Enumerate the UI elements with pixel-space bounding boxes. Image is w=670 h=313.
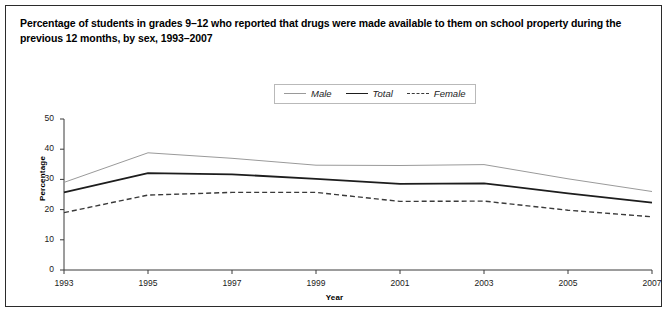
chart-canvas xyxy=(6,6,663,308)
series-line-male xyxy=(64,153,652,192)
x-axis-tick-label: 1997 xyxy=(209,278,255,288)
x-axis-tick-label: 1995 xyxy=(125,278,171,288)
y-axis-tick-label: 40 xyxy=(28,143,54,153)
x-axis-tick-label: 2003 xyxy=(461,278,507,288)
x-axis-tick-label: 2007 xyxy=(629,278,670,288)
y-axis-tick-label: 0 xyxy=(28,264,54,274)
series-line-female xyxy=(64,192,652,216)
y-axis-tick-label: 30 xyxy=(28,173,54,183)
y-axis-tick-label: 50 xyxy=(28,113,54,123)
y-axis-tick-label: 10 xyxy=(28,234,54,244)
chart-plot-area xyxy=(6,6,663,308)
x-axis-tick-label: 1999 xyxy=(293,278,339,288)
figure-panel: Percentage of students in grades 9–12 wh… xyxy=(5,5,662,307)
x-axis-title: Year xyxy=(6,293,663,302)
x-axis-tick-label: 2001 xyxy=(377,278,423,288)
x-axis-tick-label: 1993 xyxy=(41,278,87,288)
x-axis-tick-label: 2005 xyxy=(545,278,591,288)
y-axis-tick-label: 20 xyxy=(28,204,54,214)
series-line-total xyxy=(64,173,652,203)
